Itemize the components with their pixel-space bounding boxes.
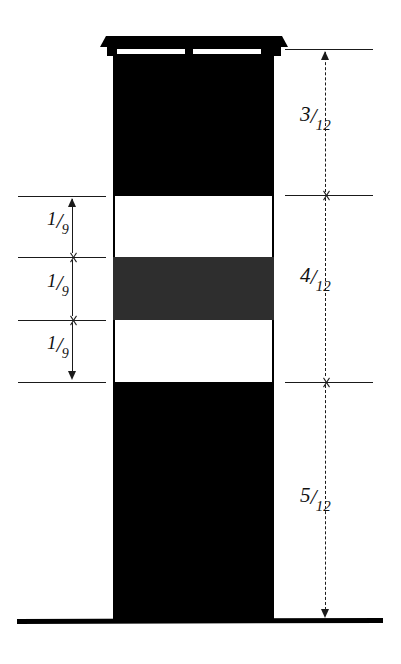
right-label-3-12-denominator: 12	[316, 117, 331, 133]
right-dim-arrow-5-12-bottom	[321, 609, 329, 618]
column-segment-lower-void	[113, 320, 274, 382]
left-label-1-9-c-denominator: 9	[62, 346, 69, 361]
left-label-1-9-c-numerator: 1	[47, 332, 57, 353]
cap-slot-left	[117, 49, 185, 54]
left-label-1-9-b-denominator: 9	[62, 284, 69, 299]
column-segment-top-shaft	[113, 56, 274, 196]
column-segment-bottom-shaft	[113, 382, 274, 620]
right-label-5-12-denominator: 12	[316, 498, 331, 514]
right-dim-arrow-3-12-top	[321, 51, 329, 60]
left-label-1-9-a-numerator: 1	[47, 208, 57, 229]
left-label-1-9-b-numerator: 1	[47, 270, 57, 291]
left-label-1-9-a-denominator: 9	[62, 222, 69, 237]
left-extension-line-4	[18, 382, 106, 383]
left-dim-label-1-9-b: 1/9	[47, 271, 70, 293]
left-dim-arrow-1-9-c-bottom	[68, 371, 76, 380]
cap-slot-right	[193, 49, 261, 54]
left-dim-line-1-9-c	[72, 323, 73, 373]
right-label-4-12-denominator: 12	[316, 278, 331, 294]
column-cap-slab	[100, 36, 288, 47]
left-dim-line-1-9-a	[72, 199, 73, 253]
right-dim-label-5-12: 5/12	[300, 485, 332, 507]
proportion-diagram: 3/12 4/12 5/12 1/9 1/9 1/9	[0, 0, 401, 664]
ground-baseline	[17, 618, 383, 624]
right-label-3-12-numerator: 3	[300, 102, 311, 126]
left-dim-line-1-9-b	[72, 260, 73, 316]
right-extension-line-top	[285, 49, 373, 50]
right-label-5-12-numerator: 5	[300, 483, 311, 507]
left-dim-label-1-9-a: 1/9	[47, 209, 70, 231]
right-dim-label-3-12: 3/12	[300, 104, 332, 126]
left-extension-line-1	[18, 196, 106, 197]
column-segment-upper-void	[113, 196, 274, 257]
column-segment-shaded-band	[113, 257, 274, 320]
right-dim-label-4-12: 4/12	[300, 265, 332, 287]
left-dim-arrow-1-9-a-top	[68, 198, 76, 207]
left-dim-label-1-9-c: 1/9	[47, 333, 70, 355]
left-extension-line-2	[18, 257, 106, 258]
left-extension-line-3	[18, 320, 106, 321]
right-label-4-12-numerator: 4	[300, 263, 311, 287]
